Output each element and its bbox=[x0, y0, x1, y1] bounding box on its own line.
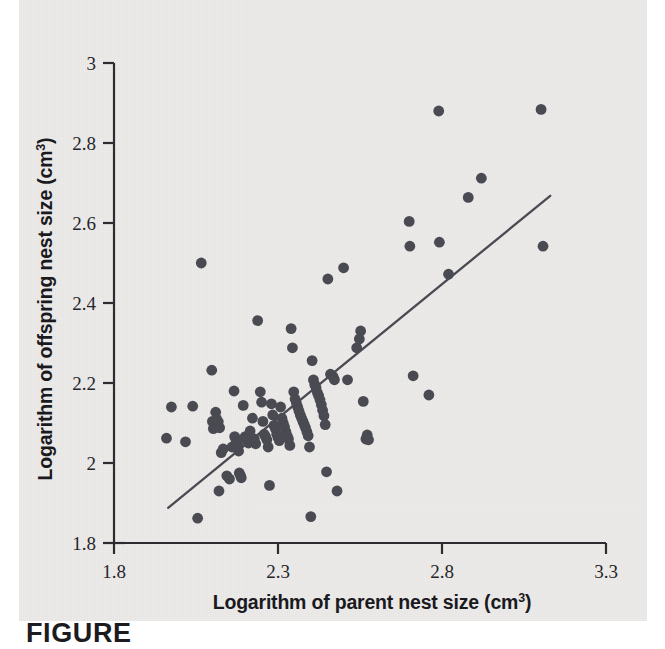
data-point bbox=[214, 486, 225, 497]
y-tick-label: 1.8 bbox=[72, 533, 96, 554]
data-point bbox=[338, 262, 349, 273]
data-points bbox=[161, 104, 548, 524]
axes: 1.82.32.83.31.822.22.42.62.83 bbox=[72, 53, 618, 582]
x-axis-title: Logarithm of parent nest size (cm3) bbox=[213, 591, 532, 613]
data-point bbox=[255, 386, 266, 397]
data-point bbox=[321, 466, 332, 477]
axis-labels: Logarithm of parent nest size (cm3)Logar… bbox=[34, 138, 531, 613]
data-point bbox=[229, 386, 240, 397]
x-tick-label: 2.3 bbox=[266, 561, 290, 582]
data-point bbox=[463, 192, 474, 203]
x-tick-label: 3.3 bbox=[594, 561, 618, 582]
y-tick-label: 3 bbox=[87, 53, 97, 74]
data-point bbox=[180, 436, 191, 447]
data-point bbox=[332, 486, 343, 497]
y-tick-label: 2.6 bbox=[72, 213, 96, 234]
data-point bbox=[320, 419, 331, 430]
data-point bbox=[303, 430, 314, 441]
data-point bbox=[363, 434, 374, 445]
y-tick-label: 2.8 bbox=[72, 133, 96, 154]
data-point bbox=[161, 433, 172, 444]
data-point bbox=[342, 374, 353, 385]
data-point bbox=[286, 323, 297, 334]
y-tick-label: 2 bbox=[87, 453, 97, 474]
data-point bbox=[284, 440, 295, 451]
data-point bbox=[476, 173, 487, 184]
data-point bbox=[196, 258, 207, 269]
regression-line bbox=[168, 196, 550, 508]
data-point bbox=[434, 237, 445, 248]
data-point bbox=[322, 274, 333, 285]
trendline bbox=[168, 196, 550, 508]
data-point bbox=[433, 106, 444, 117]
x-tick-label: 1.8 bbox=[102, 561, 126, 582]
y-axis-title: Logarithm of offspring nest size (cm3) bbox=[34, 138, 56, 481]
data-point bbox=[224, 474, 235, 485]
data-point bbox=[166, 402, 177, 413]
y-tick-label: 2.4 bbox=[72, 293, 96, 314]
figure-root: 1.82.32.83.31.822.22.42.62.83 Logarithm … bbox=[0, 0, 665, 649]
data-point bbox=[187, 401, 198, 412]
data-point bbox=[192, 513, 203, 524]
data-point bbox=[252, 315, 263, 326]
x-tick-label: 2.8 bbox=[430, 561, 454, 582]
y-tick-label: 2.2 bbox=[72, 373, 96, 394]
data-point bbox=[536, 104, 547, 115]
figure-caption-strip: FIGURE bbox=[0, 621, 665, 649]
data-point bbox=[266, 398, 277, 409]
figure-caption: FIGURE bbox=[26, 621, 132, 649]
data-point bbox=[256, 397, 267, 408]
data-point bbox=[304, 442, 315, 453]
data-point bbox=[214, 422, 225, 433]
data-point bbox=[247, 413, 258, 424]
data-point bbox=[206, 365, 217, 376]
data-point bbox=[307, 355, 318, 366]
data-point bbox=[423, 390, 434, 401]
data-point bbox=[408, 370, 419, 381]
data-point bbox=[404, 216, 415, 227]
data-point bbox=[275, 402, 286, 413]
data-point bbox=[355, 326, 366, 337]
data-point bbox=[538, 241, 549, 252]
scatter-plot: 1.82.32.83.31.822.22.42.62.83 Logarithm … bbox=[0, 0, 665, 649]
data-point bbox=[264, 480, 275, 491]
data-point bbox=[236, 472, 247, 483]
data-point bbox=[305, 511, 316, 522]
data-point bbox=[358, 396, 369, 407]
data-point bbox=[238, 400, 249, 411]
data-point bbox=[404, 241, 415, 252]
data-point bbox=[287, 342, 298, 353]
data-point bbox=[263, 442, 274, 453]
data-point bbox=[258, 416, 269, 427]
